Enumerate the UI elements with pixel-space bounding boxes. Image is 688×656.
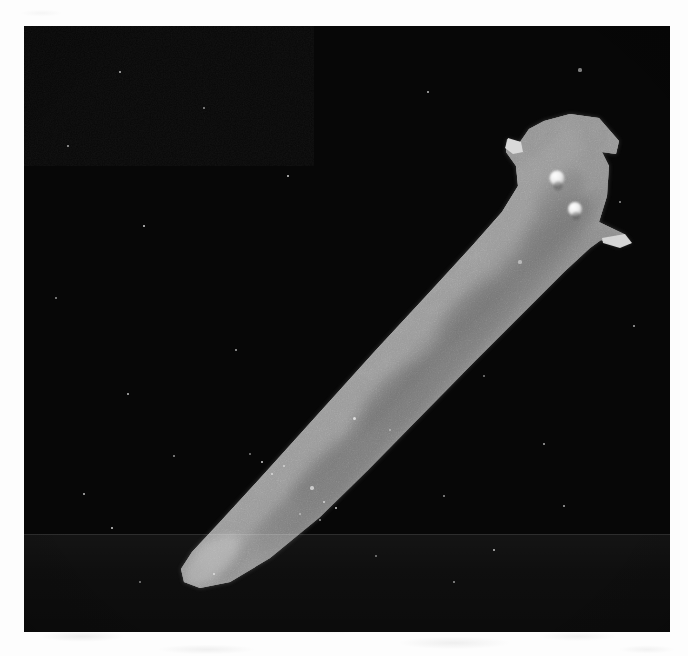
eyespot-posterior-rim <box>572 212 580 220</box>
eyespot-anterior-rim <box>554 182 563 191</box>
worm-body-group <box>164 106 644 606</box>
planarian-specimen <box>24 26 670 632</box>
photographic-plate <box>24 26 670 632</box>
scanned-page <box>0 0 688 656</box>
body-grain <box>164 106 644 606</box>
specimen-layer <box>24 26 670 632</box>
